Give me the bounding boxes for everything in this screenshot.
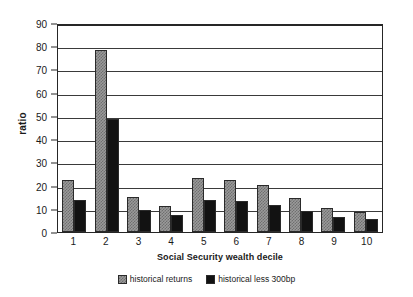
y-tick-label-20: 20: [36, 181, 47, 192]
bar-1-series-2: [74, 200, 86, 232]
bar-group-9: [317, 25, 349, 232]
bar-group-10: [350, 25, 382, 232]
legend-label-1: historical returns: [130, 274, 192, 284]
bar-1-series-1: [62, 180, 74, 232]
bar-group-2: [90, 25, 122, 232]
bar-chart: ratio 0102030405060708090 12345678910 So…: [0, 0, 413, 297]
bar-6-series-1: [224, 180, 236, 232]
y-tick-label-30: 30: [36, 158, 47, 169]
y-axis-ticks: 0102030405060708090: [0, 0, 57, 233]
chart-legend: historical returnshistorical less 300bp: [0, 274, 413, 284]
bar-3-series-2: [139, 210, 151, 232]
bar-10-series-1: [354, 212, 366, 232]
y-tick-label-40: 40: [36, 135, 47, 146]
bar-7-series-1: [257, 185, 269, 232]
bar-group-8: [285, 25, 317, 232]
bar-9-series-1: [321, 208, 333, 232]
bar-9-series-2: [333, 217, 345, 232]
bar-group-7: [252, 25, 284, 232]
y-tick-label-70: 70: [36, 65, 47, 76]
bar-7-series-2: [269, 205, 281, 232]
bar-8-series-1: [289, 198, 301, 232]
bar-group-1: [58, 25, 90, 232]
bar-10-series-2: [366, 219, 378, 232]
legend-swatch-2: [206, 275, 215, 284]
y-tick-label-10: 10: [36, 204, 47, 215]
bar-group-4: [155, 25, 187, 232]
y-tick-label-60: 60: [36, 88, 47, 99]
y-tick-label-0: 0: [41, 228, 47, 239]
legend-label-2: historical less 300bp: [218, 274, 295, 284]
bar-group-5: [188, 25, 220, 232]
y-tick-label-50: 50: [36, 111, 47, 122]
bar-group-3: [123, 25, 155, 232]
bar-2-series-2: [107, 119, 119, 232]
bar-6-series-2: [236, 201, 248, 232]
legend-item-1: historical returns: [118, 274, 192, 284]
bar-2-series-1: [95, 50, 107, 232]
plot-area: [57, 24, 383, 233]
bar-8-series-2: [301, 211, 313, 232]
bar-groups: [58, 25, 382, 232]
x-axis-title: Social Security wealth decile: [57, 252, 383, 262]
legend-swatch-1: [118, 275, 127, 284]
bar-3-series-1: [127, 197, 139, 232]
bar-4-series-1: [159, 206, 171, 232]
y-tick-label-80: 80: [36, 42, 47, 53]
legend-item-2: historical less 300bp: [206, 274, 295, 284]
bar-5-series-1: [192, 178, 204, 232]
bar-group-6: [220, 25, 252, 232]
y-tick-label-90: 90: [36, 19, 47, 30]
bar-4-series-2: [171, 215, 183, 232]
bar-5-series-2: [204, 200, 216, 233]
